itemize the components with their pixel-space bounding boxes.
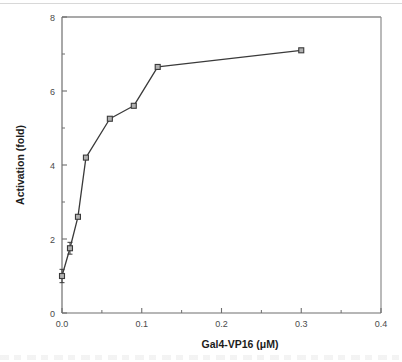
- data-point-marker: [155, 64, 160, 69]
- x-tick-label: 0.3: [295, 319, 308, 329]
- y-tick-label: 4: [50, 161, 55, 171]
- x-tick-label: 0.4: [375, 319, 388, 329]
- y-tick-label: 8: [50, 13, 55, 23]
- plot-frame: [62, 17, 381, 313]
- data-point-marker: [75, 214, 80, 219]
- y-tick-labels: 02468: [50, 13, 55, 319]
- data-point-marker: [83, 155, 88, 160]
- y-tick-label: 2: [50, 235, 55, 245]
- x-tick-labels: 0.00.10.20.30.4: [56, 319, 388, 329]
- x-axis-title: Gal4-VP16 (μM): [201, 338, 278, 350]
- x-tick-label: 0.0: [56, 319, 69, 329]
- y-tick-label: 0: [50, 309, 55, 319]
- x-tick-label: 0.1: [135, 319, 148, 329]
- figure-canvas: 0.00.10.20.30.4 02468 Gal4-VP16 (μM) Act…: [0, 0, 402, 362]
- y-axis-title: Activation (fold): [14, 125, 26, 205]
- data-markers: [60, 48, 304, 279]
- data-point-marker: [67, 246, 72, 251]
- axis-ticks: [62, 17, 381, 313]
- data-point-marker: [60, 274, 65, 279]
- data-line: [62, 50, 301, 276]
- caption-artifact: [0, 355, 402, 360]
- data-point-marker: [299, 48, 304, 53]
- data-point-marker: [107, 116, 112, 121]
- x-tick-label: 0.2: [215, 319, 228, 329]
- y-tick-label: 6: [50, 87, 55, 97]
- line-chart: 0.00.10.20.30.4 02468 Gal4-VP16 (μM) Act…: [0, 0, 402, 362]
- data-point-marker: [131, 103, 136, 108]
